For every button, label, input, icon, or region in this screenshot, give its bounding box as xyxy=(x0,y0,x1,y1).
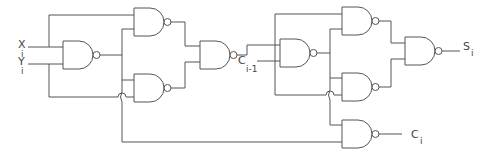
nand-gate-1 xyxy=(63,41,100,69)
nand-gate-8 xyxy=(342,120,379,148)
nand-gate-7 xyxy=(342,73,379,101)
g6-g7-to-g9-wires xyxy=(379,21,405,87)
nand-gate-3 xyxy=(134,74,171,102)
g5-output-wire xyxy=(317,29,342,125)
sum-output-subscript: i xyxy=(471,48,474,58)
input-y-subscript: i xyxy=(21,66,24,76)
carry-output-subscript: i xyxy=(420,136,423,146)
x-branch-wire xyxy=(49,15,134,47)
sum-output-label: S xyxy=(463,40,470,53)
nand-gate-6 xyxy=(342,7,379,35)
full-adder-circuit: C i-1 X i Y i S i C i xyxy=(0,0,485,158)
g2-g3-to-g4-wires xyxy=(171,22,200,88)
carry-in-label: C xyxy=(238,54,246,67)
carry-in-subscript: i-1 xyxy=(246,64,257,74)
nand-gate-9 xyxy=(405,37,442,65)
nand-gate-5 xyxy=(280,39,317,67)
nand-gate-4 xyxy=(200,41,237,69)
carry-output-label: C xyxy=(411,128,419,141)
y-branch-wire xyxy=(49,64,134,97)
nand-gate-2 xyxy=(134,8,171,36)
